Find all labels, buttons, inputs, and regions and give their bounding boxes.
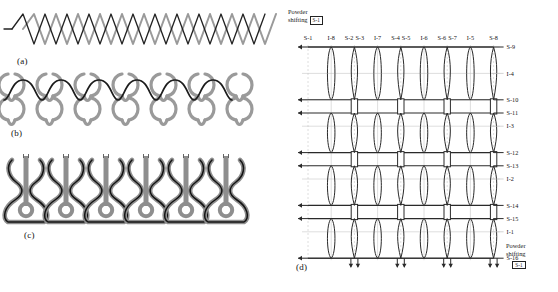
panel-a-svg — [0, 4, 280, 60]
panel-d: S-1I-8S-2S-3I-7S-4S-5I-6S-6S-7I-5S-8 S-9… — [284, 0, 558, 292]
lattice-right-label: S-13 — [507, 162, 519, 169]
lattice-top-label: S-2 — [345, 34, 354, 41]
lattice-right-label: S-9 — [507, 43, 516, 50]
powder-shifting-top: Powder shifting S-1 — [288, 8, 323, 25]
powder-shifting-bottom-box: S-1 — [512, 261, 525, 269]
lattice-right-label: S-10 — [507, 96, 519, 103]
lattice-top-label: S-5 — [402, 34, 411, 41]
panel-a: (a) — [0, 4, 280, 66]
lattice-top-label: I-5 — [467, 34, 474, 41]
lattice-top-label: S-4 — [391, 34, 400, 41]
lattice-top-label: S-1 — [304, 34, 313, 41]
panel-b-graphic — [0, 70, 280, 132]
powder-shifting-top-line1: Powder — [288, 8, 323, 16]
lattice-right-label: S-12 — [507, 149, 519, 156]
lattice-top-label: I-7 — [374, 34, 381, 41]
panel-d-label: (d) — [296, 262, 307, 272]
panel-c: (c) — [0, 150, 280, 250]
lattice-right-label: S-15 — [507, 215, 519, 222]
lattice-top-label: S-7 — [448, 34, 457, 41]
panel-a-graphic — [0, 4, 280, 60]
lattice-right-label: S-14 — [507, 202, 519, 209]
lattice-top-labels: S-1I-8S-2S-3I-7S-4S-5I-6S-6S-7I-5S-8 — [304, 34, 498, 41]
powder-shifting-bottom-line2: shifting — [506, 250, 526, 258]
panel-c-graphic — [0, 150, 280, 235]
powder-shifting-top-box: S-1 — [310, 16, 323, 25]
powder-shifting-top-line2: shifting — [288, 16, 308, 24]
lattice-top-label: S-8 — [489, 34, 498, 41]
lattice-right-label: I-1 — [507, 228, 514, 235]
lattice-top-label: I-6 — [420, 34, 427, 41]
panel-b-svg — [0, 70, 280, 132]
panel-a-label: (a) — [17, 56, 28, 66]
lattice-right-labels: S-9I-4S-10S-11I-3S-12S-13I-2S-14S-15I-1S… — [507, 43, 519, 261]
lattice-right-label: S-11 — [507, 109, 518, 116]
panel-b-label: (b) — [11, 128, 22, 138]
lattice-right-label: I-2 — [507, 175, 514, 182]
panel-b-loop-field — [0, 74, 252, 125]
panel-b: (b) — [0, 70, 280, 142]
panel-c-svg — [0, 150, 280, 235]
lattice-top-label: S-6 — [438, 34, 447, 41]
lattice-top-label: I-8 — [328, 34, 335, 41]
lattice-right-label: I-4 — [507, 70, 514, 77]
lattice-network — [308, 47, 497, 258]
figure-canvas: (a) (b) (c) S-1I-8S-2S-3I-7S-4S-5I-6S-6S — [0, 0, 558, 292]
lattice-right-label: I-3 — [507, 122, 514, 129]
lattice-top-label: S-3 — [355, 34, 364, 41]
panel-c-label: (c) — [24, 230, 35, 240]
powder-shifting-bottom-line1: Powder — [506, 242, 526, 250]
panel-c-cells — [5, 154, 248, 222]
powder-shifting-bottom: Powder shifting S-1 — [506, 242, 526, 269]
